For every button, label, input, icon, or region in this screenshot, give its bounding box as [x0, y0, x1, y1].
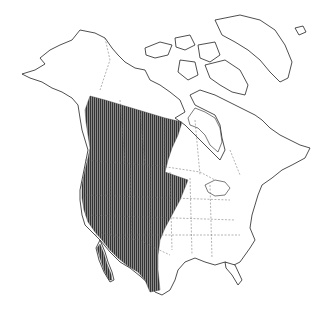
range-map — [0, 0, 329, 311]
arctic-island — [175, 35, 195, 50]
iceland — [295, 26, 306, 35]
baffin-island — [205, 60, 248, 95]
florida — [225, 262, 242, 285]
arctic-island — [145, 42, 172, 58]
arctic-island — [178, 60, 198, 80]
arctic-island — [198, 42, 220, 62]
